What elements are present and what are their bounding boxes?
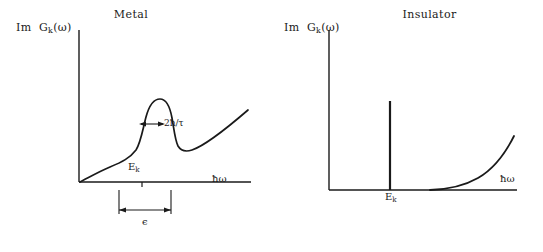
panel-metal-spectral-curve bbox=[80, 99, 248, 182]
figure-two-panel-spectral-functions: Metal Im Gk(ω) ħω Ek 2ħ/τ ϵ bbox=[0, 0, 543, 252]
panel-metal-epsilon-arrow-head-right bbox=[164, 207, 171, 212]
panel-metal-linewidth-arrow-head-right bbox=[158, 121, 165, 126]
panel-insulator-plot-area bbox=[272, 0, 543, 252]
panel-metal-plot-area bbox=[0, 0, 272, 252]
panel-insulator-continuum-curve bbox=[430, 136, 514, 190]
panel-metal-linewidth-arrow-head-left bbox=[139, 121, 146, 126]
panel-metal: Metal Im Gk(ω) ħω Ek 2ħ/τ ϵ bbox=[0, 0, 272, 252]
panel-metal-epsilon-arrow-head-left bbox=[119, 207, 126, 212]
panel-insulator: Insulator Im Gk(ω) ħω Ek bbox=[272, 0, 543, 252]
